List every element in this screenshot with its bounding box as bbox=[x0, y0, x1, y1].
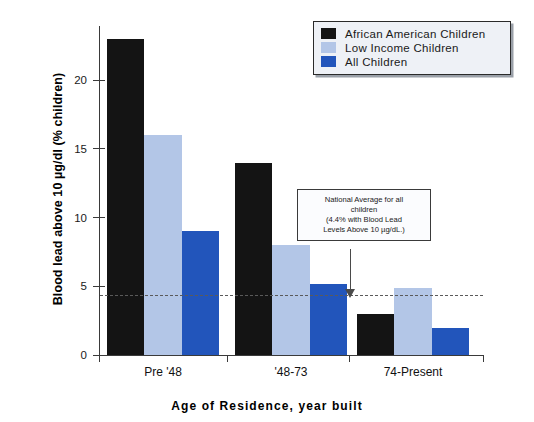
bar bbox=[107, 39, 144, 355]
x-tick-mark bbox=[483, 355, 484, 362]
bar bbox=[272, 245, 309, 355]
legend-swatch-icon bbox=[321, 28, 336, 39]
bar-chart: Blood lead above 10 µg/dl (% children) A… bbox=[0, 0, 534, 422]
bar bbox=[357, 314, 394, 355]
x-category-label: 74-Present bbox=[353, 365, 473, 379]
national-average-callout: National Average for allchildren(4.4% wi… bbox=[297, 189, 431, 241]
x-category-label: Pre '48 bbox=[103, 365, 223, 379]
legend-swatch-icon bbox=[321, 42, 336, 53]
reference-line bbox=[100, 295, 483, 296]
legend-item: All Children bbox=[321, 55, 504, 68]
bar bbox=[144, 135, 181, 355]
x-tick-mark bbox=[349, 355, 350, 362]
callout-text-line: (4.4% with Blood Lead bbox=[302, 215, 426, 225]
callout-text-line: children bbox=[302, 205, 426, 215]
y-tick-label: 5 bbox=[57, 280, 87, 292]
bar bbox=[235, 163, 272, 356]
bar bbox=[182, 231, 219, 355]
legend-item: Low Income Children bbox=[321, 41, 504, 54]
callout-text-line: National Average for all bbox=[302, 195, 426, 205]
x-axis-line bbox=[99, 355, 484, 356]
bar bbox=[432, 328, 469, 356]
legend-item-label: African American Children bbox=[345, 28, 485, 40]
legend-item-label: All Children bbox=[345, 56, 407, 68]
y-tick-label: 0 bbox=[57, 349, 87, 361]
callout-text-line: Levels Above 10 µg/dL.) bbox=[302, 225, 426, 235]
legend-swatch-icon bbox=[321, 56, 336, 67]
y-tick-label: 20 bbox=[57, 74, 87, 86]
y-tick-label: 15 bbox=[57, 143, 87, 155]
x-tick-mark bbox=[227, 355, 228, 362]
legend: African American ChildrenLow Income Chil… bbox=[313, 21, 511, 75]
callout-arrow-head-icon bbox=[345, 289, 355, 298]
x-tick-mark bbox=[99, 355, 100, 362]
bar bbox=[394, 288, 431, 355]
callout-arrow-stem bbox=[350, 249, 351, 293]
x-axis-title: Age of Residence, year built bbox=[0, 399, 534, 413]
y-tick-label: 10 bbox=[57, 212, 87, 224]
x-category-label: '48-73 bbox=[231, 365, 351, 379]
legend-item: African American Children bbox=[321, 27, 504, 40]
legend-item-label: Low Income Children bbox=[345, 42, 459, 54]
